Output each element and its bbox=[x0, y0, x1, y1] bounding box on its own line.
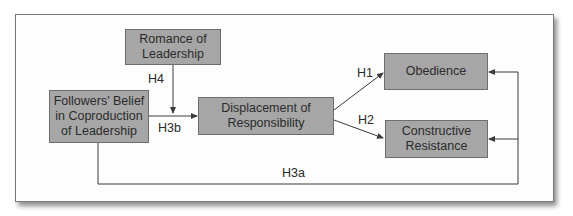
edge-label-h4: H4 bbox=[148, 72, 164, 86]
node-label: Displacement ofResponsibility bbox=[221, 101, 311, 131]
node-displacement-of-responsibility: Displacement ofResponsibility bbox=[198, 97, 334, 135]
node-label: ConstructiveResistance bbox=[402, 124, 471, 154]
node-label: Romance ofLeadership bbox=[139, 32, 206, 62]
node-followers-belief: Followers' Beliefin Coproductionof Leade… bbox=[49, 90, 149, 143]
edge-label-h1: H1 bbox=[357, 66, 373, 80]
node-romance-of-leadership: Romance ofLeadership bbox=[125, 29, 221, 65]
node-obedience: Obedience bbox=[384, 53, 488, 90]
edge-label-h3b: H3b bbox=[158, 121, 181, 135]
edge-label-h2: H2 bbox=[358, 113, 374, 127]
node-label: Obedience bbox=[406, 64, 466, 79]
node-constructive-resistance: ConstructiveResistance bbox=[385, 120, 488, 158]
edge-label-h3a: H3a bbox=[282, 166, 305, 180]
node-label: Followers' Beliefin Coproductionof Leade… bbox=[54, 94, 145, 139]
